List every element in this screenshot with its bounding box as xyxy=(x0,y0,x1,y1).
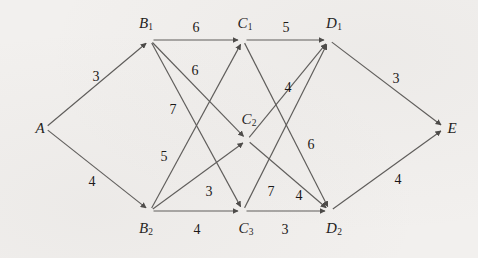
graph-edge-c3-d1 xyxy=(245,44,327,207)
edge-weight-c3-d1: 7 xyxy=(268,185,275,199)
node-label-c1: C1 xyxy=(238,16,253,33)
edge-weight-d1-e: 3 xyxy=(393,72,400,86)
node-subscript-c1: 1 xyxy=(248,22,253,32)
node-label-a: A xyxy=(35,121,44,136)
edge-weight-b1-c2: 6 xyxy=(192,64,199,78)
edge-weight-b2-c3: 4 xyxy=(194,223,201,237)
edge-weight-b1-c3: 7 xyxy=(170,103,177,117)
node-label-d2: D2 xyxy=(326,221,342,238)
node-label-c2: C2 xyxy=(242,112,257,129)
node-label-e: E xyxy=(447,121,456,136)
edge-weight-b1-c1: 6 xyxy=(193,21,200,35)
node-subscript-c2: 2 xyxy=(252,118,257,128)
edge-weight-b2-c1: 5 xyxy=(161,150,168,164)
node-label-c3: C3 xyxy=(239,221,254,238)
edge-weight-c1-d2: 4 xyxy=(285,81,292,95)
graph-edge-a-b2 xyxy=(48,130,146,208)
node-label-b1: B1 xyxy=(139,16,153,33)
node-subscript-b1: 1 xyxy=(148,22,153,32)
edge-weight-d2-e: 4 xyxy=(395,173,402,187)
edge-weight-a-b2: 4 xyxy=(89,175,96,189)
edge-weight-a-b1: 3 xyxy=(93,70,100,84)
node-subscript-d2: 2 xyxy=(337,227,342,237)
edge-weight-c2-d1: 6 xyxy=(308,138,315,152)
edge-weight-c3-d2: 3 xyxy=(282,223,289,237)
edge-weight-b2-c2: 3 xyxy=(206,185,213,199)
edge-weight-c2-d2: 4 xyxy=(296,189,303,203)
node-subscript-b2: 2 xyxy=(148,227,153,237)
graph-edge-a-b1 xyxy=(48,43,146,126)
edge-weight-c1-d1: 5 xyxy=(283,21,290,35)
graph-diagram-canvas: AB1B2C1C2C3D1D2E 3466753454673434 xyxy=(0,0,478,258)
node-subscript-d1: 1 xyxy=(337,22,342,32)
graph-edge-d1-e xyxy=(332,42,441,125)
node-label-d1: D1 xyxy=(326,16,342,33)
node-label-b2: B2 xyxy=(139,221,153,238)
graph-edge-d2-e xyxy=(333,131,441,209)
node-subscript-c3: 3 xyxy=(249,227,254,237)
